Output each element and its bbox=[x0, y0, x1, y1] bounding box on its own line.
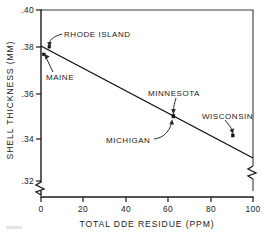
x-tick-label-100: 100 bbox=[246, 204, 261, 214]
x-tick-label-80: 80 bbox=[206, 204, 216, 214]
point-label-minnesota: MINNESOTA bbox=[148, 89, 200, 98]
y-tick-label-034: .34 bbox=[21, 134, 34, 144]
point-label-wisconsin: WISCONSIN bbox=[202, 112, 253, 121]
y-tick-label-040: .40 bbox=[21, 5, 34, 15]
data-point-minnesota-michigan[interactable] bbox=[172, 115, 175, 118]
x-tick-label-60: 60 bbox=[163, 204, 173, 214]
y-tick-label-036: .36 bbox=[21, 89, 34, 99]
scan-artifact bbox=[6, 226, 22, 229]
y-tick-label-038: .38 bbox=[21, 42, 34, 52]
chart-page: .40 .38 .36 .34 .32 0 20 40 60 80 100 TO… bbox=[0, 0, 267, 233]
x-axis-title: TOTAL DDE RESIDUE (PPM) bbox=[79, 219, 214, 229]
x-tick-label-40: 40 bbox=[121, 204, 131, 214]
x-tick-label-0: 0 bbox=[39, 204, 44, 214]
point-label-maine: MAINE bbox=[46, 73, 74, 82]
point-label-michigan: MICHIGAN bbox=[106, 136, 150, 145]
x-tick-label-20: 20 bbox=[78, 204, 88, 214]
data-point-wisconsin[interactable] bbox=[232, 134, 235, 137]
shell-thickness-scatter-chart: .40 .38 .36 .34 .32 0 20 40 60 80 100 TO… bbox=[0, 0, 267, 233]
point-label-rhode-island: RHODE ISLAND bbox=[64, 30, 131, 39]
y-axis-title: SHELL THICKNESS (MM) bbox=[5, 41, 15, 160]
y-tick-label-032: .32 bbox=[21, 176, 34, 186]
